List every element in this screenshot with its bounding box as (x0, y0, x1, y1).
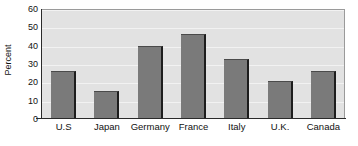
x-tick-label: Japan (94, 121, 120, 132)
x-tick-label: Italy (228, 121, 245, 132)
y-tick-label: 10 (28, 96, 38, 106)
y-tick-label: 50 (28, 22, 38, 32)
x-tick-label: Canada (307, 121, 340, 132)
bar-chart: Percent 0102030405060 U.SJapanGermanyFra… (0, 0, 358, 146)
y-axis-tick-labels: 0102030405060 (16, 9, 40, 119)
y-tick-label: 30 (28, 59, 38, 69)
y-axis-title: Percent (0, 0, 16, 120)
y-tick-label: 20 (28, 77, 38, 87)
x-tick-label: Germany (131, 121, 170, 132)
bar (138, 46, 163, 119)
plot-area (42, 9, 345, 119)
y-tick-label: 40 (28, 41, 38, 51)
x-axis-line (36, 118, 346, 119)
bar (311, 71, 336, 119)
bar (268, 81, 293, 119)
x-tick-label: U.S (56, 121, 72, 132)
y-axis-line (41, 9, 42, 119)
bars-layer (42, 10, 344, 119)
bar (224, 59, 249, 120)
y-tick-label: 0 (33, 114, 38, 124)
x-tick-label: France (179, 121, 209, 132)
x-tick-label: U.K. (271, 121, 289, 132)
bar (181, 34, 206, 119)
bar (51, 71, 76, 119)
y-tick-label: 60 (28, 4, 38, 14)
y-axis-title-text: Percent (3, 44, 13, 75)
bar (94, 91, 119, 119)
x-axis-tick-labels: U.SJapanGermanyFranceItalyU.K.Canada (42, 121, 345, 141)
